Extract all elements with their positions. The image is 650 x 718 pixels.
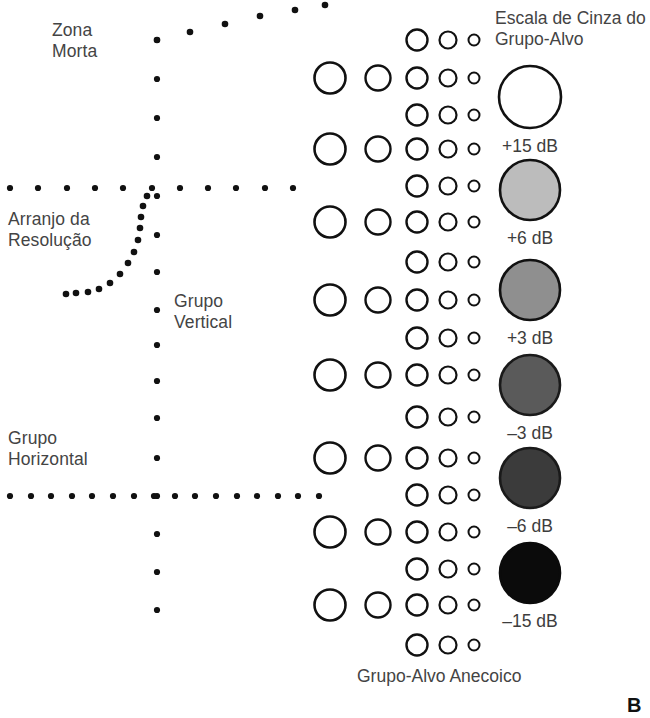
anechoic-circle bbox=[407, 139, 428, 160]
gray-scale-db-label: –3 dB bbox=[475, 423, 585, 444]
anechoic-circle bbox=[366, 520, 391, 545]
anechoic-circle bbox=[440, 178, 457, 195]
anechoic-circle bbox=[440, 141, 457, 158]
anechoic-circle bbox=[469, 181, 480, 192]
anechoic-circle bbox=[469, 257, 480, 268]
lower-hline-dot bbox=[151, 493, 157, 499]
resolution-arc-dot bbox=[96, 286, 103, 293]
anechoic-circle bbox=[407, 212, 428, 233]
label-dead-zone: Zona Morta bbox=[52, 20, 97, 62]
anechoic-circle bbox=[407, 522, 428, 543]
anechoic-circle bbox=[469, 35, 480, 46]
anechoic-target-group bbox=[315, 30, 480, 656]
anechoic-circle bbox=[407, 635, 428, 656]
label-vertical-group: Grupo Vertical bbox=[174, 291, 232, 333]
gray-scale-circle bbox=[500, 260, 560, 320]
anechoic-circle bbox=[407, 328, 428, 349]
vertical-line-dot bbox=[154, 455, 160, 461]
lower-hline-dot bbox=[69, 493, 75, 499]
resolution-arc-dot bbox=[131, 249, 138, 256]
anechoic-circle bbox=[440, 254, 457, 271]
anechoic-circle bbox=[315, 63, 346, 94]
lower-hline-dot bbox=[131, 493, 137, 499]
anechoic-circle bbox=[440, 32, 457, 49]
anechoic-circle bbox=[440, 107, 457, 124]
gray-scale-db-label: –6 dB bbox=[475, 516, 585, 537]
vertical-line-dot bbox=[154, 193, 160, 199]
vertical-line-dot bbox=[154, 307, 160, 313]
lower-hline-dot bbox=[89, 493, 95, 499]
dead-zone-dotted-line bbox=[154, 2, 329, 44]
resolution-arc-dot bbox=[85, 289, 92, 296]
gray-scale-db-label: +6 dB bbox=[475, 228, 585, 249]
upper-horizontal-dotted-line bbox=[7, 185, 296, 191]
upper-hline-dot bbox=[35, 185, 41, 191]
upper-hline-dot bbox=[92, 185, 98, 191]
label-horizontal-group: Grupo Horizontal bbox=[8, 428, 88, 470]
gray-scale-circle bbox=[500, 448, 560, 508]
vertical-line-dot bbox=[154, 569, 160, 575]
anechoic-circle bbox=[366, 363, 391, 388]
lower-hline-dot bbox=[172, 493, 178, 499]
dead-zone-dot bbox=[154, 37, 161, 44]
anechoic-circle bbox=[407, 30, 428, 51]
upper-hline-dot bbox=[64, 185, 70, 191]
resolution-arc-dot bbox=[107, 280, 114, 287]
lower-hline-dot bbox=[192, 493, 198, 499]
resolution-arc-dot bbox=[140, 203, 147, 210]
figure-panel-b: Zona Morta Arranjo da Resolução Grupo Ve… bbox=[0, 0, 650, 718]
label-gray-scale-title: Escala de Cinza do Grupo-Alvo bbox=[495, 8, 646, 50]
anechoic-circle bbox=[440, 487, 457, 504]
anechoic-circle bbox=[407, 176, 428, 197]
anechoic-circle bbox=[469, 370, 480, 381]
vertical-line-dot bbox=[154, 154, 160, 160]
vertical-line-dot bbox=[154, 269, 160, 275]
resolution-arc-dot bbox=[144, 193, 151, 200]
gray-scale-circle bbox=[500, 160, 560, 220]
anechoic-circle bbox=[366, 446, 391, 471]
lower-hline-dot bbox=[316, 493, 322, 499]
anechoic-circle bbox=[407, 485, 428, 506]
dead-zone-dot bbox=[322, 2, 329, 9]
anechoic-circle bbox=[366, 210, 391, 235]
anechoic-circle bbox=[469, 73, 480, 84]
gray-scale-circle bbox=[500, 543, 560, 603]
gray-scale-circle bbox=[500, 355, 560, 415]
resolution-arc-dot bbox=[73, 290, 80, 297]
anechoic-circle bbox=[440, 597, 457, 614]
anechoic-circle bbox=[315, 285, 346, 316]
vertical-dotted-line bbox=[154, 37, 160, 613]
anechoic-circle bbox=[315, 360, 346, 391]
upper-hline-dot bbox=[7, 185, 13, 191]
gray-scale-db-label: +15 dB bbox=[475, 136, 585, 157]
vertical-line-dot bbox=[154, 607, 160, 613]
anechoic-circle bbox=[407, 365, 428, 386]
anechoic-circle bbox=[366, 137, 391, 162]
resolution-arc-dot bbox=[125, 260, 132, 267]
anechoic-circle bbox=[440, 637, 457, 654]
lower-hline-dot bbox=[234, 493, 240, 499]
lower-hline-dot bbox=[295, 493, 301, 499]
anechoic-circle bbox=[469, 453, 480, 464]
anechoic-circle bbox=[440, 292, 457, 309]
lower-hline-dot bbox=[7, 493, 13, 499]
dead-zone-dot bbox=[257, 13, 264, 20]
vertical-line-dot bbox=[154, 232, 160, 238]
lower-hline-dot bbox=[110, 493, 116, 499]
anechoic-circle bbox=[440, 524, 457, 541]
vertical-line-dot bbox=[154, 76, 160, 82]
resolution-arc-dot bbox=[138, 214, 145, 221]
anechoic-circle bbox=[315, 443, 346, 474]
upper-hline-dot bbox=[149, 185, 155, 191]
anechoic-circle bbox=[469, 110, 480, 121]
anechoic-circle bbox=[407, 595, 428, 616]
anechoic-circle bbox=[469, 412, 480, 423]
upper-hline-dot bbox=[233, 185, 239, 191]
resolution-arc-dot bbox=[117, 271, 124, 278]
anechoic-circle bbox=[407, 290, 428, 311]
label-resolution-array: Arranjo da Resolução bbox=[8, 209, 92, 251]
anechoic-circle bbox=[315, 207, 346, 238]
anechoic-circle bbox=[315, 134, 346, 165]
anechoic-circle bbox=[440, 330, 457, 347]
upper-hline-dot bbox=[120, 185, 126, 191]
